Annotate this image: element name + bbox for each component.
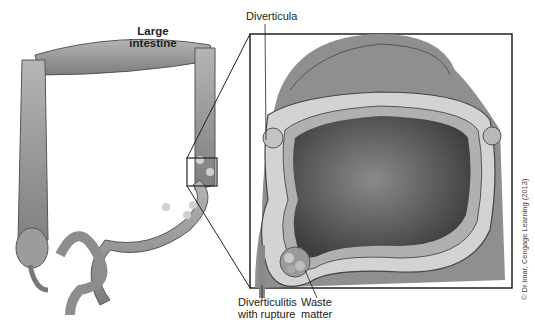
diverticulitis-line-1: Diverticulitis: [238, 296, 297, 308]
copyright-credit: © Dr.Imar, Cengage Learning (2013): [520, 179, 529, 300]
diverticulitis-line-2: with rupture: [238, 308, 297, 320]
waste-matter-label: Waste matter: [301, 296, 332, 320]
large-intestine-title: Large intestine: [118, 25, 188, 49]
large-intestine: [16, 39, 215, 315]
title-line-1: Large: [118, 25, 188, 37]
diverticula-label: Diverticula: [246, 10, 297, 22]
waste-line-2: matter: [301, 308, 332, 320]
title-line-2: intestine: [118, 37, 188, 49]
diverticulitis-label: Diverticulitis with rupture: [238, 296, 297, 320]
intestine-illustration: [0, 0, 535, 328]
waste-line-1: Waste: [301, 296, 332, 308]
